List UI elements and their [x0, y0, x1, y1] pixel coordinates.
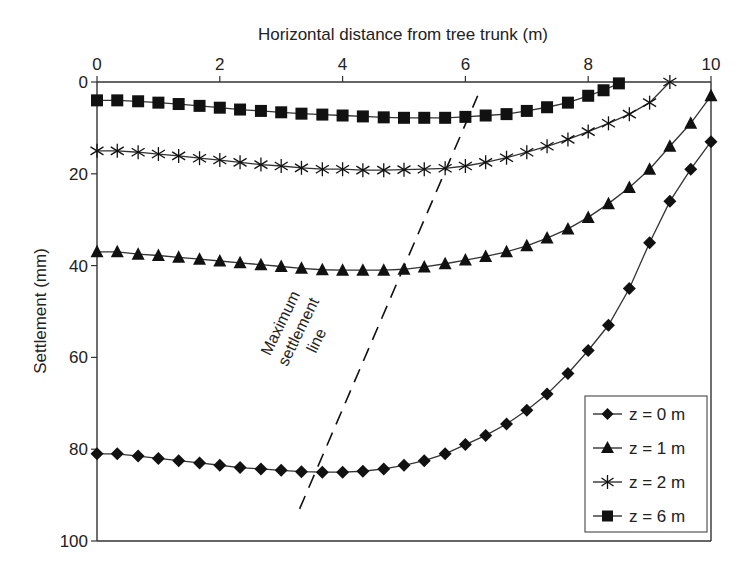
chart-canvas: Horizontal distance from tree trunk (m) … [0, 0, 753, 580]
square-marker-icon [602, 511, 613, 522]
y-tick-label: 40 [69, 257, 88, 276]
y-tick-label: 60 [69, 348, 88, 367]
x-tick-label: 0 [92, 55, 101, 74]
x-tick-label: 2 [215, 55, 224, 74]
legend-label-z0: z = 0 m [629, 405, 685, 424]
y-tick-label: 80 [69, 440, 88, 459]
legend-label-z1: z = 1 m [629, 439, 685, 458]
legend-label-z2: z = 2 m [629, 473, 685, 492]
series-square [91, 77, 625, 123]
legend-label-z6: z = 6 m [629, 507, 685, 526]
y-tick-label: 0 [79, 73, 88, 92]
x-tick-label: 6 [461, 55, 470, 74]
legend: z = 0 m z = 1 m z = 2 m z = 6 m [585, 396, 707, 532]
y-axis-title: Settlement (mm) [31, 248, 50, 374]
x-tick-label: 4 [338, 55, 347, 74]
settlement-chart: Horizontal distance from tree trunk (m) … [0, 0, 753, 580]
maximum-settlement-line [300, 96, 478, 509]
x-axis-title: Horizontal distance from tree trunk (m) [258, 25, 548, 44]
x-tick-label: 8 [583, 55, 592, 74]
y-tick-label: 100 [60, 532, 88, 551]
x-tick-label: 10 [702, 55, 721, 74]
maximum-settlement-label: Maximum settlement line [256, 286, 340, 378]
y-tick-label: 20 [69, 165, 88, 184]
